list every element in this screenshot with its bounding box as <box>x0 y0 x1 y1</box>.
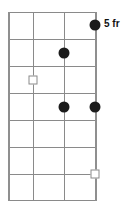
note-marker-square <box>29 76 38 85</box>
string-line-1 <box>8 12 10 201</box>
chord-diagram: 5 fr <box>0 0 123 208</box>
note-marker-dot <box>59 48 70 59</box>
fret-line-2 <box>8 66 96 67</box>
note-marker-dot <box>59 102 70 113</box>
fret-line-7 <box>8 200 96 201</box>
string-line-2 <box>33 12 34 201</box>
fret-position-label: 5 fr <box>104 19 120 29</box>
note-marker-square <box>91 170 100 179</box>
note-marker-dot <box>90 102 101 113</box>
fret-line-0 <box>8 12 96 13</box>
fret-line-1 <box>8 39 96 40</box>
note-marker-dot <box>90 20 101 31</box>
fret-line-6 <box>8 174 96 175</box>
fret-line-4 <box>8 120 96 121</box>
fret-line-5 <box>8 147 96 148</box>
fret-line-3 <box>8 93 96 94</box>
